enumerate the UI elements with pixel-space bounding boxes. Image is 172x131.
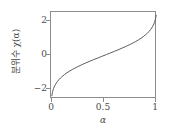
- x-axis-label: α: [100, 116, 106, 125]
- x-axis-tick-labels: 0 0.5 1: [0, 103, 172, 117]
- y-tick-label-neg2: −2: [26, 84, 47, 93]
- chart-figure: 분위수 χ(α) 2 0 −2 0 0.5 1 α: [0, 0, 172, 131]
- y-tick-label-0: 0: [26, 50, 47, 59]
- plot-area: [50, 11, 156, 98]
- y-axis-label-wrapper: 분위수 χ(α): [8, 0, 26, 103]
- quantile-curve: [52, 15, 156, 96]
- y-tick-label-2: 2: [26, 16, 47, 25]
- x-tick-label-0-5: 0.5: [96, 103, 110, 112]
- quantile-curve-svg: [51, 12, 157, 99]
- y-axis-label: 분위수 χ(α): [13, 29, 22, 74]
- x-tick-label-0: 0: [48, 103, 54, 112]
- x-tick-label-1: 1: [152, 103, 158, 112]
